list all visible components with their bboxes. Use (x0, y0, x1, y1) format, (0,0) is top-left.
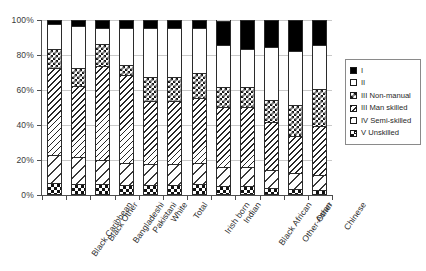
x-axis-tick (66, 195, 67, 200)
y-axis-tick-label: 80% (16, 50, 34, 60)
bar-segment (217, 168, 230, 187)
bar-segment (96, 20, 109, 29)
y-axis-tick-label: 60% (16, 85, 34, 95)
bar-segment (168, 102, 181, 165)
bar-segment (48, 156, 61, 184)
x-axis-tick (187, 195, 188, 200)
bar-stack[interactable] (312, 20, 327, 195)
bar-segment (168, 165, 181, 186)
bar-segment (265, 189, 278, 195)
legend-item[interactable]: IV Semi-skilled (350, 114, 417, 127)
legend-item-label: I (361, 67, 363, 75)
bar-segment (289, 137, 302, 174)
bar-segment (144, 102, 157, 165)
legend-item[interactable]: I (350, 64, 417, 77)
y-axis-tick (37, 20, 42, 21)
bar-segment (217, 21, 230, 46)
bar-segment (120, 164, 133, 187)
bar-stack[interactable] (167, 20, 182, 195)
bar-segment (289, 20, 302, 52)
legend-swatch-icon (350, 117, 357, 124)
x-axis-tick (284, 195, 285, 200)
bar-segment (313, 90, 326, 127)
bar-segment (96, 67, 109, 161)
bar-segment (265, 123, 278, 171)
legend-item-label: III Man skilled (361, 104, 407, 112)
x-axis-tick (260, 195, 261, 200)
bar-segment (96, 185, 109, 195)
bar-segment (289, 190, 302, 195)
bar-segment (217, 46, 230, 88)
legend-swatch-icon (350, 92, 357, 99)
legend-item-label: III Non-manual (361, 92, 411, 100)
bar-segment (217, 88, 230, 107)
x-axis-tick (90, 195, 91, 200)
bar-segment (241, 187, 254, 195)
bar-segment (289, 174, 302, 190)
bar-segment (48, 25, 61, 50)
bar-segment (241, 20, 254, 50)
legend-item-label: II (361, 79, 365, 87)
y-axis-tick (37, 125, 42, 126)
bar-segment (72, 87, 85, 159)
bar-segment (193, 20, 206, 29)
legend-item-label: V Unskilled (361, 129, 399, 137)
bar-segment (241, 50, 254, 89)
bar-segment (265, 48, 278, 101)
bar-segment (168, 20, 181, 29)
x-axis-tick (163, 195, 164, 200)
legend-swatch-icon (350, 67, 357, 74)
bar-segment (72, 27, 85, 69)
bar-segment (241, 108, 254, 168)
bar-stack[interactable] (192, 20, 207, 195)
bar-segment (72, 185, 85, 196)
plot-area: 0%20%40%60%80%100% (42, 20, 332, 195)
legend-swatch-icon (350, 130, 357, 137)
x-axis-tick-label: Asian (313, 200, 334, 224)
bar-segment (313, 46, 326, 90)
bar-segment (193, 74, 206, 99)
bar-segment (144, 186, 157, 195)
bar-stack[interactable] (71, 20, 86, 195)
bar-segment (144, 165, 157, 186)
chart-legend: IIIIII Non-manualIII Man skilledIV Semi-… (345, 59, 421, 145)
bar-segment (289, 52, 302, 106)
bar-stack[interactable] (95, 20, 110, 195)
bar-segment (48, 184, 61, 195)
bar-segment (289, 106, 302, 138)
x-axis-tick (235, 195, 236, 200)
legend-item-label: IV Semi-skilled (361, 117, 411, 125)
bar-segment (193, 99, 206, 164)
bar-segment (193, 185, 206, 195)
bar-stack[interactable] (216, 20, 231, 195)
bar-stack[interactable] (288, 20, 303, 195)
bar-stack[interactable] (143, 20, 158, 195)
bar-segment (120, 20, 133, 29)
legend-item[interactable]: III Man skilled (350, 102, 417, 115)
bar-stack[interactable] (240, 20, 255, 195)
bar-stack[interactable] (264, 20, 279, 195)
y-axis-tick-label: 20% (16, 155, 34, 165)
legend-item[interactable]: II (350, 77, 417, 90)
bar-segment (96, 161, 109, 186)
bar-segment (144, 29, 157, 78)
bar-segment (313, 176, 326, 191)
legend-swatch-icon (350, 79, 357, 86)
legend-item[interactable]: III Non-manual (350, 89, 417, 102)
legend-item[interactable]: V Unskilled (350, 127, 417, 140)
legend-swatch-icon (350, 105, 357, 112)
bar-segment (313, 20, 326, 46)
bar-stack[interactable] (119, 20, 134, 195)
bar-segment (217, 108, 230, 168)
bar-segment (193, 164, 206, 186)
x-axis-tick (211, 195, 212, 200)
bar-segment (168, 186, 181, 195)
bar-segment (217, 187, 230, 195)
bar-segment (72, 158, 85, 184)
bar-segment (72, 20, 85, 27)
y-axis-tick (37, 55, 42, 56)
bar-stack[interactable] (47, 20, 62, 195)
bar-segment (144, 78, 157, 103)
bar-segment (96, 29, 109, 45)
bar-segment (168, 78, 181, 103)
